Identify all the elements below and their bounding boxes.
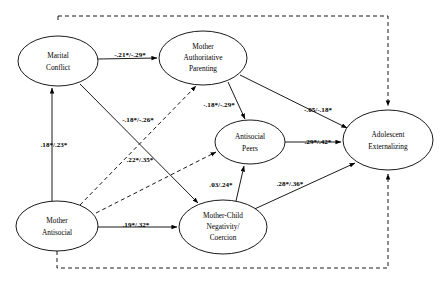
node-ellipse-antisocial-peers	[215, 120, 285, 164]
path-coefficient-mother-antisocial-to-mother-child-negativity-coercion: .19*/.32*	[123, 221, 150, 229]
node-label-antisocial-peers-line2: Peers	[242, 144, 258, 153]
path-coefficient-mother-antisocial-to-mother-authoritative-parenting: -.18*/-.26*	[122, 116, 154, 124]
edge-mother-child-negativity-coercion-to-antisocial-peers	[236, 166, 244, 201]
path-coefficient-mother-child-negativity-coercion-to-adolescent-externalizing: .28*/.36*	[277, 180, 304, 188]
node-label-mother-authoritative-parenting-line1: Mother	[192, 42, 214, 51]
node-adolescent-externalizing[interactable]: Adolescent Externalizing	[343, 110, 433, 170]
node-ellipse-adolescent-externalizing	[343, 110, 433, 170]
node-ellipse-mother-antisocial	[16, 201, 98, 251]
node-label-marital-conflict-line1: Marital	[47, 51, 68, 60]
path-coefficient-marital-conflict-to-mother-child-negativity-coercion: .22*/.35*	[127, 156, 154, 164]
path-coefficient-antisocial-peers-to-adolescent-externalizing: .29*/.42*	[305, 138, 332, 146]
node-label-mother-antisocial-line1: Mother	[46, 216, 68, 225]
path-coefficient-marital-conflict-to-mother-authoritative-parenting: -.21*/-.29*	[114, 51, 146, 59]
path-coefficient-mother-antisocial-to-marital-conflict: .18*/.23*	[41, 141, 68, 149]
path-coefficient-mother-authoritative-parenting-to-adolescent-externalizing: -.05/-.18*	[304, 106, 332, 114]
edge-mother-antisocial-to-mother-authoritative-parenting	[80, 86, 196, 205]
node-ellipse-marital-conflict	[18, 36, 98, 86]
node-label-antisocial-peers-line1: Antisocial	[235, 132, 265, 141]
node-label-mother-child-negativity-coercion-line3: Coercion	[210, 233, 237, 242]
path-diagram-figure: Marital Conflict Mother Authoritative Pa…	[0, 0, 443, 282]
node-label-marital-conflict-line2: Conflict	[46, 63, 70, 72]
node-label-mother-child-negativity-coercion-line1: Mother-Child	[203, 211, 243, 220]
diagram-canvas: Marital Conflict Mother Authoritative Pa…	[0, 0, 443, 282]
node-marital-conflict[interactable]: Marital Conflict	[18, 36, 98, 86]
node-label-adolescent-externalizing-line2: Externalizing	[368, 142, 408, 151]
node-label-mother-antisocial-line2: Antisocial	[42, 228, 72, 237]
node-label-mother-authoritative-parenting-line3: Parenting	[189, 64, 217, 73]
node-antisocial-peers[interactable]: Antisocial Peers	[215, 120, 285, 164]
node-mother-child-negativity-coercion[interactable]: Mother-Child Negativity/ Coercion	[179, 200, 267, 254]
path-coefficient-mother-authoritative-parenting-to-antisocial-peers: -.18*/-.29*	[203, 101, 235, 109]
node-mother-authoritative-parenting[interactable]: Mother Authoritative Parenting	[159, 31, 247, 85]
node-label-adolescent-externalizing-line1: Adolescent	[372, 130, 405, 139]
node-mother-antisocial[interactable]: Mother Antisocial	[16, 201, 98, 251]
node-label-mother-child-negativity-coercion-line2: Negativity/	[207, 222, 241, 231]
path-coefficient-mother-child-negativity-coercion-to-antisocial-peers: .03/.24*	[209, 181, 233, 189]
node-label-mother-authoritative-parenting-line2: Authoritative	[184, 53, 223, 62]
